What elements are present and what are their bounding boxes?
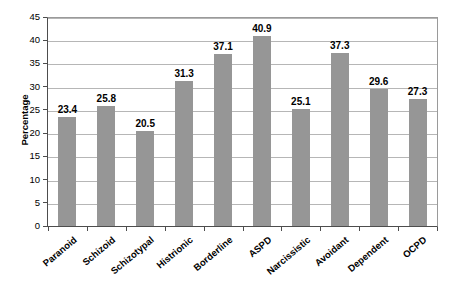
y-axis-tick-label: 25 [29, 104, 40, 116]
y-axis-ticks: 454035302520151050 [0, 17, 47, 227]
y-axis-tick-label: 10 [29, 174, 40, 186]
bar-value-label: 29.6 [369, 76, 388, 87]
bar [370, 89, 388, 226]
y-axis-tick-label: 20 [29, 127, 40, 139]
x-axis-tick-mark [48, 227, 49, 231]
x-axis-tick-mark [165, 227, 166, 231]
x-axis-category-text: Histrionic [155, 234, 196, 271]
chart-screenshot: Percentage 454035302520151050 23.425.820… [0, 0, 449, 296]
y-axis-tick: 35 [0, 57, 47, 69]
bar [253, 36, 271, 226]
y-axis-tick: 0 [0, 220, 47, 232]
x-axis-category-text: Paranoid [40, 234, 78, 269]
bar-slot: 20.5 [126, 17, 165, 226]
x-axis-tick-mark [87, 227, 88, 231]
y-axis-tick: 25 [0, 104, 47, 116]
bar-slot: 31.3 [165, 17, 204, 226]
x-axis-labels: ParanoidSchizoidSchizotypalHistrionicBor… [48, 232, 437, 294]
bar-slot: 40.9 [243, 17, 282, 226]
bar-slot: 37.3 [320, 17, 359, 226]
bar [409, 99, 427, 226]
x-axis-category-text: OCPD [401, 234, 429, 260]
bar-slot: 23.4 [48, 17, 87, 226]
x-axis-tick-mark [359, 227, 360, 231]
y-axis-tick: 15 [0, 150, 47, 162]
y-axis-tick-label: 30 [29, 81, 40, 93]
y-axis-tick-label: 15 [29, 150, 40, 162]
bar-series: 23.425.820.531.337.140.925.137.329.627.3 [48, 17, 437, 226]
bar [292, 109, 310, 226]
y-axis-tick: 30 [0, 81, 47, 93]
bar-slot: 27.3 [398, 17, 437, 226]
y-axis-tick: 10 [0, 174, 47, 186]
y-axis-tick-label: 35 [29, 57, 40, 69]
x-axis-tick-mark [320, 227, 321, 231]
bar-value-label: 27.3 [408, 86, 427, 97]
x-axis-tick-mark [204, 227, 205, 231]
bar [58, 117, 76, 226]
bar-value-label: 23.4 [58, 104, 77, 115]
x-axis-tick-mark [437, 227, 438, 231]
bar-slot: 25.1 [281, 17, 320, 226]
bar [331, 53, 349, 226]
bar-value-label: 25.8 [97, 93, 116, 104]
x-axis-tick-mark [281, 227, 282, 231]
bar-value-label: 25.1 [291, 96, 310, 107]
x-axis-category-text: ASPD [246, 234, 273, 259]
bar [175, 81, 193, 226]
x-axis-category-text: Borderline [191, 234, 234, 273]
y-axis-tick-label: 5 [35, 197, 40, 209]
x-axis-tick-mark [398, 227, 399, 231]
bar-slot: 29.6 [359, 17, 398, 226]
y-axis-tick: 5 [0, 197, 47, 209]
bar-value-label: 37.3 [330, 40, 349, 51]
x-axis-category-text: Dependent [345, 234, 390, 274]
x-axis-tick-mark [243, 227, 244, 231]
bar-value-label: 31.3 [174, 68, 193, 79]
y-axis-tick-label: 45 [29, 11, 40, 23]
bar [214, 54, 232, 226]
x-axis-category-text: Schizoid [80, 234, 117, 268]
y-axis-tick: 40 [0, 34, 47, 46]
x-axis-category-text: Avoidant [313, 234, 351, 268]
bar-value-label: 37.1 [213, 41, 232, 52]
y-axis-tick: 45 [0, 11, 47, 23]
bar-value-label: 20.5 [136, 118, 155, 129]
bar-slot: 37.1 [204, 17, 243, 226]
bar-value-label: 40.9 [252, 23, 271, 34]
bar [97, 106, 115, 226]
y-axis-tick: 20 [0, 127, 47, 139]
x-axis-tick-mark [126, 227, 127, 231]
bar-slot: 25.8 [87, 17, 126, 226]
bar [136, 131, 154, 226]
y-axis-tick-label: 0 [35, 220, 40, 232]
y-axis-tick-label: 40 [29, 34, 40, 46]
